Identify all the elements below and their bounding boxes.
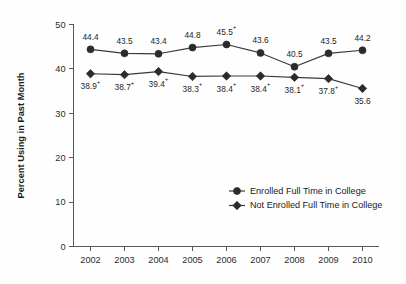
data-point-marker bbox=[223, 41, 230, 48]
x-tick-label: 2002 bbox=[80, 255, 100, 265]
chart-legend: Enrolled Full Time in CollegeNot Enrolle… bbox=[229, 186, 382, 211]
data-point-marker bbox=[189, 44, 196, 51]
x-tick-label: 2006 bbox=[216, 255, 236, 265]
data-point-marker bbox=[155, 50, 162, 57]
data-point-label: 44.8 bbox=[184, 30, 201, 40]
data-point-marker bbox=[188, 72, 196, 80]
data-point-label: 38.7+ bbox=[115, 78, 135, 92]
x-tick-label: 2008 bbox=[284, 255, 304, 265]
data-point-label: 43.5 bbox=[116, 36, 133, 46]
y-axis-title-text: Percent Using in Past Month bbox=[16, 72, 26, 198]
data-point-marker bbox=[233, 201, 241, 209]
data-point-marker bbox=[257, 49, 264, 56]
data-point-marker bbox=[154, 67, 162, 75]
data-point-label: 44.2 bbox=[354, 33, 371, 43]
data-point-marker bbox=[256, 72, 264, 80]
data-point-label: 44.4 bbox=[82, 32, 99, 42]
data-point-label: 40.5 bbox=[286, 49, 303, 59]
data-point-label: 38.3+ bbox=[183, 80, 203, 94]
x-tick-label: 2005 bbox=[182, 255, 202, 265]
legend-label: Enrolled Full Time in College bbox=[250, 186, 366, 196]
x-tick-label: 2004 bbox=[148, 255, 168, 265]
x-tick-label: 2003 bbox=[114, 255, 134, 265]
data-point-marker bbox=[121, 50, 128, 57]
data-point-label: 37.8+ bbox=[319, 82, 339, 96]
line-chart: 01020304050 2002200320042005200620072008… bbox=[0, 0, 406, 284]
data-point-label: 38.1+ bbox=[285, 81, 305, 95]
chart-screenshot: 01020304050 2002200320042005200620072008… bbox=[0, 0, 406, 284]
data-point-label: 43.4 bbox=[150, 36, 167, 46]
data-point-label: 45.5+ bbox=[217, 23, 237, 37]
y-tick-label: 40 bbox=[55, 64, 65, 74]
data-point-labels: 44.443.543.444.845.5+43.640.543.544.238.… bbox=[81, 23, 371, 106]
data-point-marker bbox=[234, 188, 241, 195]
data-point-marker bbox=[324, 74, 332, 82]
data-point-marker bbox=[325, 50, 332, 57]
y-axis: 01020304050 bbox=[55, 20, 73, 252]
data-point-marker bbox=[87, 46, 94, 53]
x-tick-label: 2007 bbox=[250, 255, 270, 265]
data-point-marker bbox=[290, 73, 298, 81]
x-tick-label: 2010 bbox=[352, 255, 372, 265]
data-point-label: 38.4+ bbox=[217, 79, 237, 93]
data-point-marker bbox=[358, 84, 366, 92]
data-point-label: 35.6 bbox=[354, 96, 371, 106]
data-point-marker bbox=[120, 70, 128, 78]
y-tick-label: 50 bbox=[55, 20, 65, 30]
y-tick-label: 10 bbox=[55, 197, 65, 207]
y-tick-label: 30 bbox=[55, 109, 65, 119]
data-point-label: 39.4+ bbox=[149, 75, 169, 89]
data-point-marker bbox=[86, 70, 94, 78]
y-axis-title: Percent Using in Past Month bbox=[16, 72, 26, 198]
x-axis: 200220032004200520062007200820092010 bbox=[74, 247, 379, 265]
data-point-marker bbox=[291, 63, 298, 70]
x-tick-label: 2009 bbox=[318, 255, 338, 265]
data-point-label: 43.5 bbox=[320, 36, 337, 46]
data-point-label: 38.4+ bbox=[251, 79, 271, 93]
y-tick-label: 20 bbox=[55, 153, 65, 163]
legend-label: Not Enrolled Full Time in College bbox=[250, 200, 382, 210]
data-point-marker bbox=[359, 47, 366, 54]
data-point-label: 43.6 bbox=[252, 35, 269, 45]
data-point-marker bbox=[222, 72, 230, 80]
y-tick-label: 0 bbox=[60, 242, 65, 252]
data-point-label: 38.9+ bbox=[81, 77, 101, 91]
